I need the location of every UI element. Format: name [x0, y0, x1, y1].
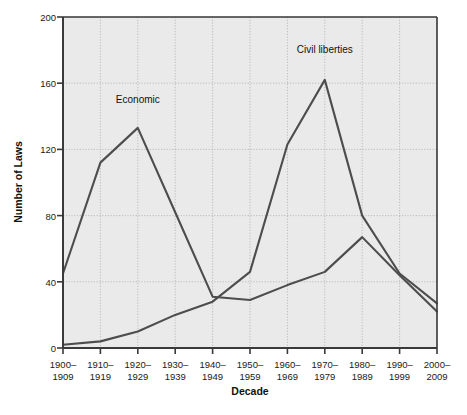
y-tick-label-120: 120: [40, 144, 56, 155]
x-tick-label-bottom-7: 1979: [314, 371, 335, 382]
y-tick-label-40: 40: [45, 277, 56, 288]
x-tick-label-bottom-0: 1909: [52, 371, 73, 382]
x-tick-label-top-0: 1900–: [50, 359, 77, 370]
x-tick-label-top-2: 1920–: [125, 359, 152, 370]
series-label-economic: Economic: [116, 94, 160, 105]
y-axis-tick-labels: 200 160 120 80 40 0: [40, 12, 56, 354]
y-axis-title: Number of Laws: [12, 141, 24, 223]
x-tick-label-top-3: 1930–: [162, 359, 189, 370]
x-tick-label-top-10: 2000–: [424, 359, 451, 370]
x-tick-label-top-8: 1980–: [349, 359, 376, 370]
x-tick-label-bottom-3: 1939: [165, 371, 186, 382]
x-tick-label-top-7: 1970–: [312, 359, 339, 370]
y-tick-label-80: 80: [45, 211, 56, 222]
x-tick-label-top-4: 1940–: [199, 359, 226, 370]
x-tick-label-bottom-9: 1999: [389, 371, 410, 382]
x-tick-label-top-1: 1910–: [87, 359, 114, 370]
y-tick-label-200: 200: [40, 12, 56, 23]
x-tick-label-bottom-8: 1989: [352, 371, 373, 382]
x-axis-title: Decade: [231, 385, 269, 397]
x-tick-label-bottom-2: 1929: [127, 371, 148, 382]
y-tick-label-0: 0: [51, 343, 56, 354]
x-tick-label-bottom-5: 1959: [239, 371, 260, 382]
series-label-civil-liberties: Civil liberties: [297, 44, 353, 55]
x-tick-label-bottom-6: 1969: [277, 371, 298, 382]
line-chart: 200 160 120 80 40 0 1900–19091910–191919…: [0, 0, 467, 415]
x-tick-label-bottom-10: 2009: [426, 371, 447, 382]
x-tick-label-top-6: 1960–: [274, 359, 301, 370]
figure-container: 200 160 120 80 40 0 1900–19091910–191919…: [0, 0, 467, 415]
x-axis-tick-labels: 1900–19091910–19191920–19291930–19391940…: [50, 359, 451, 382]
x-tick-label-bottom-4: 1949: [202, 371, 223, 382]
x-tick-label-bottom-1: 1919: [90, 371, 111, 382]
x-tick-label-top-5: 1950–: [237, 359, 264, 370]
y-tick-label-160: 160: [40, 78, 56, 89]
x-tick-label-top-9: 1990–: [386, 359, 413, 370]
